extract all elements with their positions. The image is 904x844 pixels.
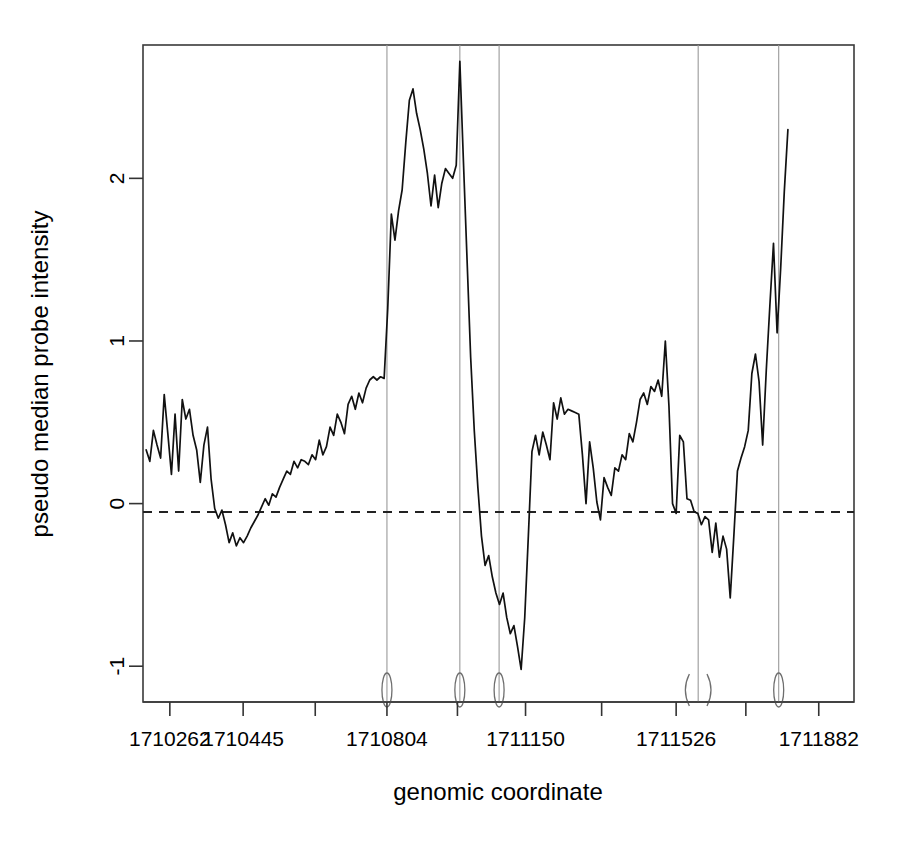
- x-tick-label-1: 1710445: [202, 727, 284, 750]
- data-series-line: [146, 61, 788, 669]
- y-axis-tick-labels-group: -1012: [105, 173, 128, 676]
- x-axis-title: genomic coordinate: [393, 778, 602, 805]
- x-tick-label-2: 1710804: [346, 727, 428, 750]
- x-tick-label-4: 1711526: [636, 727, 716, 750]
- y-tick-label-1: 0: [105, 498, 128, 510]
- x-tick-label-5: 1711882: [779, 727, 859, 750]
- y-axis-ticks-group: [129, 178, 143, 666]
- y-tick-label-0: -1: [105, 657, 128, 676]
- x-tick-label-3: 1711150: [486, 727, 565, 750]
- y-tick-label-2: 1: [105, 335, 128, 347]
- y-axis-title: pseudo median probe intensity: [26, 211, 53, 538]
- chart-figure: 1710262171044517108041711150171152617118…: [0, 0, 904, 844]
- x-tick-label-0: 1710262: [129, 727, 211, 750]
- vertical-gridlines-group: [387, 45, 779, 702]
- plot-canvas: 1710262171044517108041711150171152617118…: [0, 0, 904, 844]
- x-axis-tick-labels-group: 1710262171044517108041711150171152617118…: [129, 727, 859, 750]
- y-tick-label-3: 2: [105, 173, 128, 185]
- x-axis-ticks-group: [170, 702, 819, 716]
